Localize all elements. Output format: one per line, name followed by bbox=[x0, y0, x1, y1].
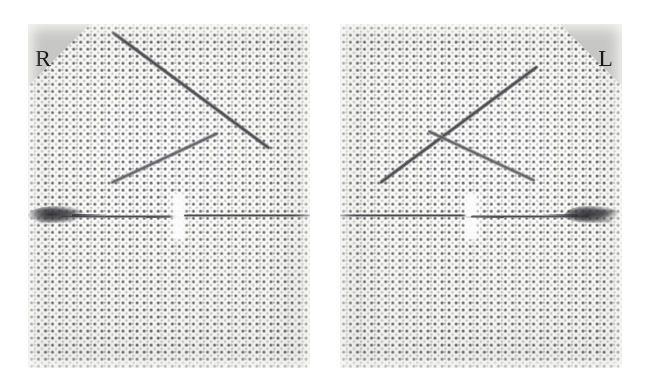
horizontal-guide-wire-segment-b bbox=[184, 214, 310, 217]
knot-tail bbox=[544, 214, 578, 217]
stereo-radiograph-figure: R L bbox=[0, 0, 648, 389]
horizontal-guide-wire-taper-a bbox=[464, 216, 504, 218]
wire-break-gap bbox=[170, 194, 187, 240]
radiograph-panel-r: R bbox=[28, 24, 310, 368]
radiograph-panel-l: L bbox=[340, 24, 622, 368]
film-density-shading bbox=[340, 24, 622, 368]
knot-tail bbox=[72, 214, 106, 217]
horizontal-guide-wire-segment-a bbox=[340, 214, 466, 217]
